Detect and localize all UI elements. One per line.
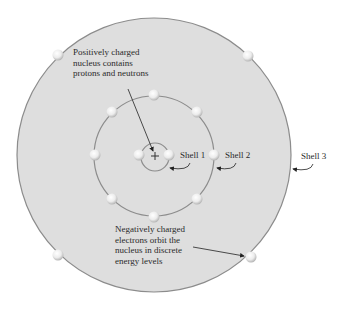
- nucleus-annotation-line: Positively charged: [73, 47, 149, 58]
- electron: [90, 150, 101, 161]
- electron: [246, 252, 257, 263]
- electron: [243, 51, 254, 62]
- electron-annotation-line: electrons orbit the: [115, 235, 185, 246]
- electron-annotation-line: nucleus in discrete: [115, 245, 185, 256]
- shell-1-label: Shell 1: [180, 150, 205, 161]
- nucleus-annotation-line: nucleus contains: [73, 58, 149, 69]
- electron: [149, 212, 160, 223]
- electron: [192, 107, 203, 118]
- electron-annotation-line: energy levels: [115, 256, 185, 267]
- shell-3-label: Shell 3: [301, 151, 326, 162]
- electron: [209, 150, 220, 161]
- nucleus-annotation: Positively charged nucleus contains prot…: [73, 47, 149, 79]
- nucleus-annotation-line: protons and neutrons: [73, 68, 149, 79]
- electron: [149, 90, 160, 101]
- electron-annotation: Negatively charged electrons orbit the n…: [115, 224, 185, 266]
- electron-annotation-line: Negatively charged: [115, 224, 185, 235]
- electron: [53, 250, 64, 261]
- electron: [134, 150, 145, 161]
- electron: [107, 107, 118, 118]
- shell-2-label: Shell 2: [225, 150, 250, 161]
- shell-3-pointer-arrow: [293, 164, 313, 170]
- electron: [53, 50, 64, 61]
- electron: [192, 194, 203, 205]
- electron: [107, 194, 118, 205]
- electron: [164, 150, 175, 161]
